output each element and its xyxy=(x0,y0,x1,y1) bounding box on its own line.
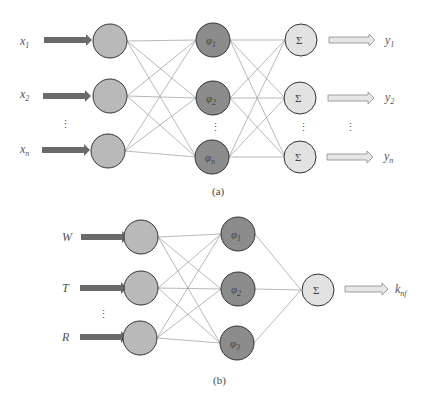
output-label-yn: yn xyxy=(383,149,393,165)
output-label-y2: y2 xyxy=(384,90,394,106)
input-ellipsis-b: ⋮ xyxy=(98,308,109,320)
input-label-x1: x1 xyxy=(19,34,29,50)
sum-label-n-a: Σ xyxy=(295,151,301,163)
input-node-n-a xyxy=(91,134,125,168)
edges-hidden-output-a xyxy=(229,40,285,157)
edges-input-hidden-b xyxy=(157,234,221,343)
input-arrows-a xyxy=(42,34,92,156)
output-arrow-b xyxy=(345,283,388,295)
hidden-ellipsis-a: ⋮ xyxy=(210,121,221,133)
output-ellipsis-a: ⋮ xyxy=(345,121,356,133)
caption-a: (a) xyxy=(212,185,225,198)
input-label-xn: xn xyxy=(19,142,29,158)
sum-label-b: Σ xyxy=(313,284,319,296)
output-arrows-a xyxy=(327,34,375,163)
output-label-y1: y1 xyxy=(384,33,394,49)
input-node-w xyxy=(124,220,158,254)
input-node-t xyxy=(124,271,158,305)
sum-label-1-a: Σ xyxy=(296,34,302,46)
panel-a: x1 x2 ⋮ xn φ1 φ2 ⋮ φn Σ Σ ⋮ Σ ⋮ y1 y2 xyxy=(19,23,394,198)
input-ellipsis-a: ⋮ xyxy=(60,118,71,130)
input-node-r xyxy=(123,321,157,355)
input-arrows-b xyxy=(80,231,128,343)
panel-b: W T ⋮ R φ1 φ2 φ3 Σ knf (b) xyxy=(61,217,408,387)
edges-hidden-output-b xyxy=(254,234,301,343)
input-node-1-a xyxy=(93,24,127,58)
caption-b: (b) xyxy=(213,374,226,387)
input-label-w: W xyxy=(62,230,73,244)
input-node-2-a xyxy=(93,79,127,113)
edges-input-hidden-a xyxy=(125,40,196,157)
rbf-network-diagram: x1 x2 ⋮ xn φ1 φ2 ⋮ φn Σ Σ ⋮ Σ ⋮ y1 y2 xyxy=(0,0,427,406)
sum-label-2-a: Σ xyxy=(295,92,301,104)
input-label-r: R xyxy=(61,330,70,344)
input-label-t: T xyxy=(62,281,70,295)
output-label-knf: knf xyxy=(395,282,408,298)
sum-ellipsis-a: ⋮ xyxy=(298,121,309,133)
input-label-x2: x2 xyxy=(19,87,29,103)
